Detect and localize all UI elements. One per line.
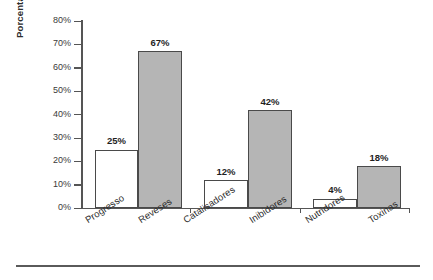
y-tick-mark bbox=[74, 161, 81, 162]
y-tick-label: 20% bbox=[30, 155, 74, 165]
bar-value-progresso: 25% bbox=[107, 135, 126, 146]
bar-value-reveses: 67% bbox=[150, 37, 169, 48]
y-tick-label: 10% bbox=[30, 179, 74, 189]
y-tick-mark bbox=[74, 208, 81, 209]
y-tick-label: 40% bbox=[30, 109, 74, 119]
y-tick-mark bbox=[74, 184, 81, 185]
y-tick-mark bbox=[74, 114, 81, 115]
x-tick-mark bbox=[300, 208, 301, 213]
bar-inibidores bbox=[248, 110, 292, 208]
y-tick-mark bbox=[74, 91, 81, 92]
y-axis-title: Porcentagem de diários bbox=[14, 0, 30, 38]
bar-chart: Porcentagem de diários 80% 70% 60% 50% 4… bbox=[0, 0, 433, 280]
y-axis-line bbox=[81, 20, 83, 209]
y-tick-label: 60% bbox=[30, 62, 74, 72]
x-tick-mark bbox=[409, 208, 410, 213]
bar-value-catalisadores: 12% bbox=[216, 166, 235, 177]
y-tick-mark bbox=[74, 44, 81, 45]
y-tick-label: 0% bbox=[30, 202, 74, 212]
y-tick-mark bbox=[74, 21, 81, 22]
bar-value-inibidores: 42% bbox=[260, 96, 279, 107]
y-tick-mark bbox=[74, 67, 81, 68]
bottom-divider bbox=[16, 265, 420, 267]
y-tick-label: 50% bbox=[30, 85, 74, 95]
y-tick-label: 30% bbox=[30, 132, 74, 142]
bar-value-toxinas: 18% bbox=[369, 152, 388, 163]
y-tick-mark bbox=[74, 138, 81, 139]
y-tick-label: 70% bbox=[30, 38, 74, 48]
bar-reveses bbox=[138, 51, 182, 208]
y-tick-label: 80% bbox=[30, 15, 74, 25]
